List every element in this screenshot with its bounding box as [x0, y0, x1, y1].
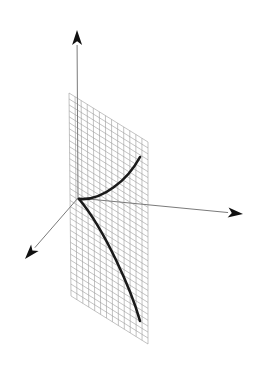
grid-line: [70, 189, 148, 238]
grid-line: [71, 278, 148, 326]
grid-line: [71, 296, 148, 344]
right-axis: [78, 198, 228, 213]
grid-line: [69, 93, 148, 142]
grid-line: [70, 153, 148, 202]
grid-line: [71, 254, 148, 302]
grid-line: [71, 248, 148, 296]
grid-line: [70, 200, 148, 248]
diagram-svg: [0, 0, 263, 375]
diagram-canvas: [0, 0, 263, 375]
front-left-axis: [35, 198, 78, 248]
grid-line: [70, 236, 148, 284]
right-arrowhead-icon: [228, 208, 243, 218]
front-left-arrowhead-icon: [25, 244, 39, 259]
grid-line: [71, 290, 148, 338]
grid-line: [70, 212, 148, 260]
grid-line: [70, 147, 148, 196]
grid-line: [69, 105, 148, 154]
grid-line: [69, 117, 148, 166]
grid-line: [69, 135, 148, 184]
grid-line: [70, 165, 148, 214]
grid-line: [69, 129, 148, 178]
grid-line: [71, 260, 148, 308]
grid-line: [70, 218, 148, 266]
vertical-arrowhead-icon: [72, 30, 82, 45]
grid-line: [70, 230, 148, 278]
grid-line: [70, 242, 148, 290]
grid-line: [69, 111, 148, 160]
grid-line: [69, 99, 148, 148]
grid-line: [70, 171, 148, 220]
